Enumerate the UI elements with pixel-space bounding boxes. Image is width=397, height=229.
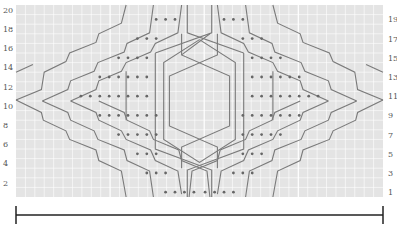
knitting-chart: 2018161412108642191715131197531 [0,0,397,229]
repeat-bar [16,206,383,224]
row-label: 13 [388,73,397,82]
row-label: 1 [388,188,393,197]
row-label: 11 [388,92,397,101]
row-label: 7 [388,131,393,140]
row-label: 5 [388,150,393,159]
row-label: 15 [388,54,397,63]
row-label: 16 [3,44,13,53]
row-label: 19 [388,15,397,24]
row-label: 9 [388,111,393,120]
row-label: 12 [3,83,13,92]
row-label: 18 [3,25,13,34]
row-label: 2 [3,179,8,188]
row-label: 20 [3,6,13,15]
row-label: 17 [388,35,397,44]
row-label: 14 [3,63,13,72]
row-label: 8 [3,121,8,130]
row-label: 4 [3,159,8,168]
row-label: 10 [3,102,13,111]
row-label: 6 [3,140,8,149]
row-label: 3 [388,169,393,178]
